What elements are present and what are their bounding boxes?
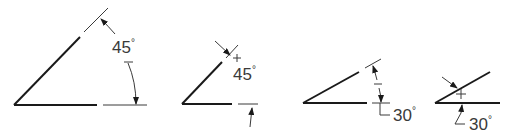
angle-dimension-diagram: 45° 45° 30° 30° <box>0 0 509 138</box>
degree-symbol: ° <box>412 105 416 116</box>
example-3-angle-30 <box>303 59 390 115</box>
angle-value: 30 <box>469 115 488 134</box>
angle-label-4: 30° <box>469 116 492 133</box>
angle-value: 30 <box>393 106 412 125</box>
angle-value: 45 <box>112 38 131 57</box>
example-2-angle-45 <box>182 41 258 127</box>
angle-label-3: 30° <box>393 107 416 124</box>
angle-label-1: 45° <box>112 39 135 56</box>
angle-value: 45 <box>233 65 252 84</box>
degree-symbol: ° <box>131 37 135 48</box>
degree-symbol: ° <box>252 64 256 75</box>
angle-label-2: 45° <box>233 66 256 83</box>
degree-symbol: ° <box>488 114 492 125</box>
